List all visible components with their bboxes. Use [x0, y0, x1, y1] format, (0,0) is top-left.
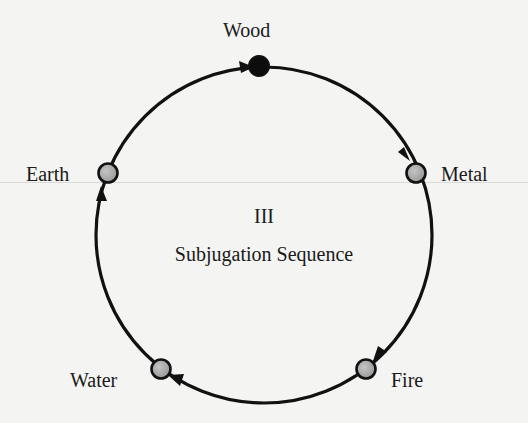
- node-earth: [99, 164, 118, 183]
- node-metal: [407, 164, 426, 183]
- node-wood: [249, 56, 269, 76]
- node-water: [152, 360, 171, 379]
- label-water: Water: [70, 370, 117, 390]
- node-fire: [357, 360, 376, 379]
- label-fire: Fire: [391, 370, 423, 390]
- arrow-water-to-earth-icon: [96, 186, 107, 201]
- label-metal: Metal: [441, 164, 488, 184]
- diagram-title: Subjugation Sequence: [0, 244, 528, 264]
- label-earth: Earth: [26, 164, 69, 184]
- subjugation-cycle-diagram: Wood Metal Fire Water Earth III Subjugat…: [0, 0, 528, 423]
- label-wood: Wood: [223, 20, 270, 40]
- arrow-fire-to-water-icon: [168, 374, 184, 386]
- diagram-numeral: III: [0, 206, 528, 226]
